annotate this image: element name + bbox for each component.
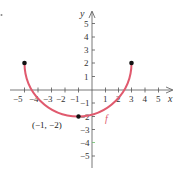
minimum-point-label: (−1, −2) xyxy=(32,120,62,130)
y-tick-label: 4 xyxy=(84,32,89,42)
x-axis xyxy=(10,87,173,93)
x-tick-label: 1 xyxy=(103,94,108,104)
x-axis-label: x xyxy=(167,93,173,104)
minimum-point xyxy=(76,114,80,118)
x-tick-label: −3 xyxy=(43,94,53,104)
endpoint-right xyxy=(129,61,134,66)
x-tick-label: −1 xyxy=(70,94,80,104)
y-tick-label: 5 xyxy=(84,19,89,29)
y-axis xyxy=(89,11,95,168)
function-label-f: f xyxy=(105,113,109,124)
y-tick-label: 1 xyxy=(84,72,89,82)
function-graph: −5 −4 −3 −2 −1 1 2 3 4 5 5 4 3 2 1 −1 −2… xyxy=(0,0,182,175)
x-tick-label: 3 xyxy=(129,94,134,104)
y-tick-label: −5 xyxy=(80,151,90,161)
x-tick-label: −5 xyxy=(13,94,23,104)
x-tick-label: 5 xyxy=(156,94,161,104)
y-axis-label: y xyxy=(79,8,85,19)
x-tick-label: −2 xyxy=(56,94,66,104)
x-tick-label: 4 xyxy=(143,94,148,104)
y-tick-label: 3 xyxy=(84,45,89,55)
y-tick-label: −3 xyxy=(80,125,90,135)
y-tick-label: −4 xyxy=(80,138,90,148)
y-tick-label: 2 xyxy=(84,58,89,68)
y-tick-label: −1 xyxy=(80,98,90,108)
endpoint-left xyxy=(22,61,27,66)
bullet-mark xyxy=(1,14,3,16)
